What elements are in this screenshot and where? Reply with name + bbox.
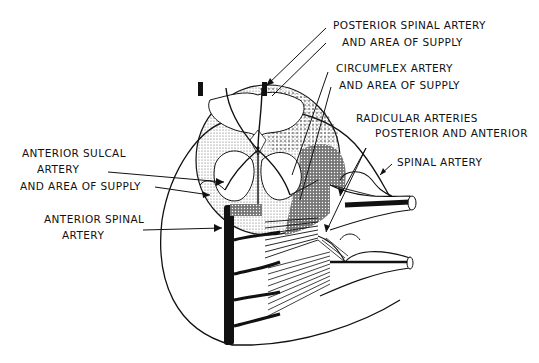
label-radicular-arteries: RADICULAR ARTERIES [356, 112, 478, 124]
spinal-cord-blood-supply-diagram: POSTERIOR SPINAL ARTERY AND AREA OF SUPP… [0, 0, 539, 363]
posterior-spinal-artery-left [198, 82, 203, 96]
label-circumflex-artery: CIRCUMFLEX ARTERY [336, 62, 453, 74]
label-circumflex-area: AND AREA OF SUPPLY [339, 79, 460, 91]
cross-section [196, 82, 346, 235]
label-anterior-spinal: ANTERIOR SPINAL [44, 213, 144, 225]
label-posterior-spinal-artery: POSTERIOR SPINAL ARTERY [333, 19, 486, 31]
posterior-spinal-artery-right [262, 82, 267, 96]
label-posterior-spinal-area: AND AREA OF SUPPLY [342, 36, 463, 48]
label-anterior-sulcal-artery: ARTERY [37, 163, 79, 175]
label-anterior-sulcal-area: AND AREA OF SUPPLY [20, 180, 141, 192]
label-anterior-spinal-artery: ARTERY [62, 229, 104, 241]
spinal-artery-vessel [345, 202, 410, 205]
label-radicular-posterior-anterior: POSTERIOR AND ANTERIOR [375, 127, 528, 139]
label-anterior-sulcal: ANTERIOR SULCAL [22, 147, 126, 159]
label-spinal-artery: SPINAL ARTERY [397, 156, 482, 168]
lower-spinal-nerve [268, 234, 413, 316]
